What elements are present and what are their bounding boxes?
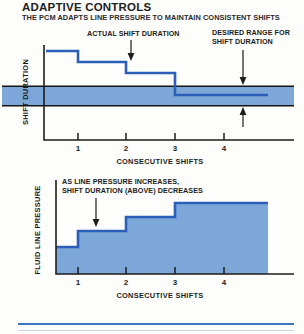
annotation-pressure-arrow-head	[93, 219, 100, 227]
bottom-chart: 1 2 3 4 CONSECUTIVE SHIFTS FLUID LINE PR…	[0, 172, 304, 317]
annotation-pressure-line1: AS LINE PRESSURE INCREASES,	[62, 177, 179, 186]
bottom-tick-label-4: 4	[222, 278, 227, 287]
annotation-desired-range-line2: SHIFT DURATION	[212, 37, 273, 46]
top-chart-ylabel: SHIFT DURATION	[21, 59, 30, 125]
annotation-actual-arrow-head	[128, 53, 135, 61]
bottom-chart-xlabel: CONSECUTIVE SHIFTS	[116, 291, 203, 300]
footer-rule-faint	[18, 330, 294, 331]
desired-range-arrow-down-head	[240, 77, 247, 85]
annotation-desired-range-line1: DESIRED RANGE FOR	[212, 28, 291, 37]
bottom-tick-label-1: 1	[76, 278, 81, 287]
bottom-tick-label-3: 3	[173, 278, 178, 287]
top-tick-label-4: 4	[222, 144, 227, 153]
top-tick-label-1: 1	[76, 144, 81, 153]
bottom-chart-ylabel: FLUID LINE PRESSURE	[33, 185, 42, 274]
desired-range-arrow-up-head	[240, 107, 247, 115]
top-tick-label-3: 3	[173, 144, 178, 153]
footer-rule-blue	[18, 323, 294, 325]
top-tick-label-2: 2	[124, 144, 129, 153]
bottom-tick-label-2: 2	[124, 278, 129, 287]
fluid-line-pressure-area	[56, 203, 268, 274]
annotation-actual-shift-duration: ACTUAL SHIFT DURATION	[87, 29, 180, 38]
annotation-pressure-line2: SHIFT DURATION (ABOVE) DECREASES	[62, 186, 203, 195]
top-chart-xlabel: CONSECUTIVE SHIFTS	[116, 157, 203, 166]
top-chart: 1 2 3 4 CONSECUTIVE SHIFTS SHIFT DURATIO…	[0, 0, 304, 175]
